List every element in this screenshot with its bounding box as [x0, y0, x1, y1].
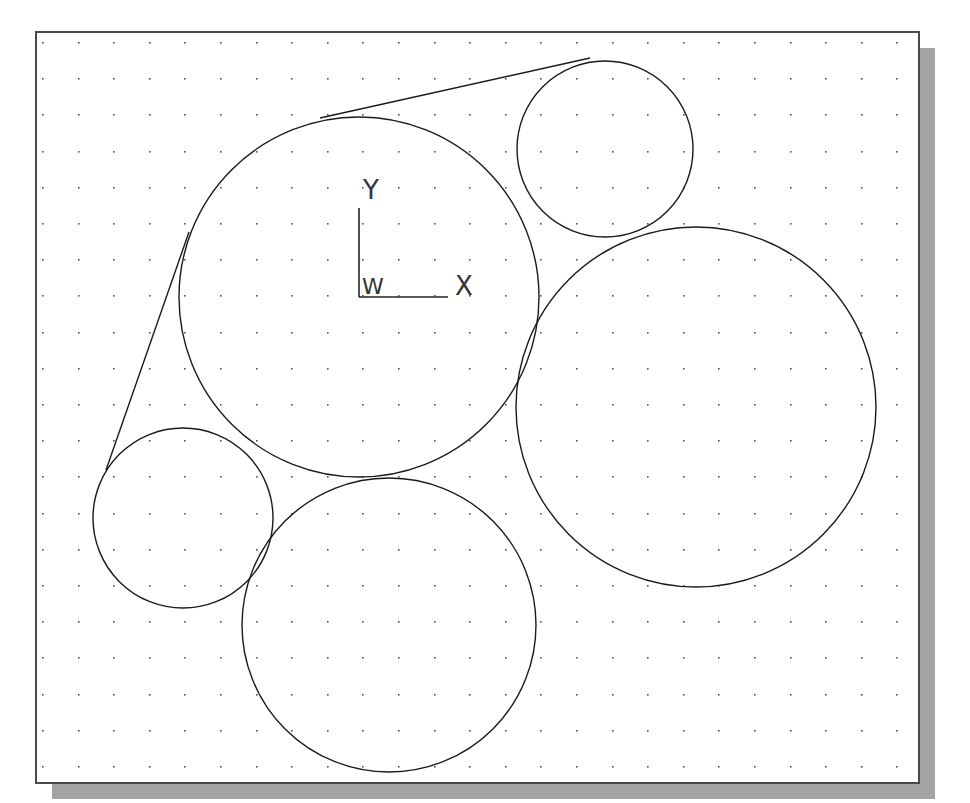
ucs-y-label: Y	[362, 175, 379, 205]
ucs-world-label: W	[362, 274, 384, 299]
cad-drawing-area[interactable]: Y X W	[0, 0, 970, 803]
drawing-canvas[interactable]: Y X W	[0, 0, 970, 803]
drawing-frame	[36, 32, 919, 783]
ucs-x-label: X	[455, 271, 473, 301]
